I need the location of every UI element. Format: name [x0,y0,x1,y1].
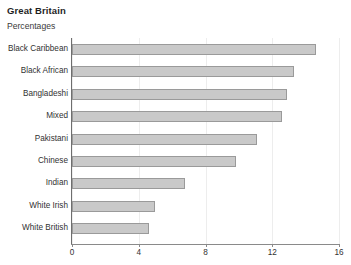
bar-chart: Great Britain Percentages Black Caribbea… [0,0,351,265]
x-axis-tick-labels: 0481216 [0,246,351,264]
x-tick-label: 8 [203,248,208,257]
x-tick-mark [339,244,340,247]
bar [72,89,287,100]
bar [72,44,316,55]
x-tick-mark [206,244,207,247]
category-label: Indian [2,178,68,187]
x-tick-mark [272,244,273,247]
category-label: Chinese [2,156,68,165]
x-tick-label: 0 [70,248,75,257]
plot-area [72,38,339,245]
bar [72,201,155,212]
x-tick-label: 12 [268,248,277,257]
x-tick-mark [139,244,140,247]
x-tick-label: 16 [334,248,343,257]
bar [72,156,236,167]
category-label: White Irish [2,201,68,210]
gridline-16 [339,38,340,245]
category-label: Black African [2,66,68,75]
category-label: Black Caribbean [2,44,68,53]
chart-subtitle: Percentages [7,21,55,31]
x-tick-label: 4 [136,248,141,257]
y-axis-line [71,38,72,245]
y-axis-category-labels: Black CaribbeanBlack AfricanBangladeshiM… [0,38,68,245]
category-label: Mixed [2,111,68,120]
bar [72,223,149,234]
bar [72,111,282,122]
x-tick-mark [72,244,73,247]
category-label: Bangladeshi [2,89,68,98]
bar [72,178,185,189]
category-label: Pakistani [2,134,68,143]
category-label: White British [2,223,68,232]
chart-title: Great Britain [7,5,66,16]
bar [72,134,257,145]
bar [72,66,294,77]
